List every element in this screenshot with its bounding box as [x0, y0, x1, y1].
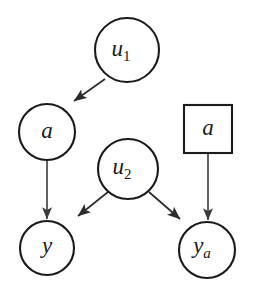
node-ya[interactable]: ya: [179, 222, 235, 278]
node-a-circle[interactable]: a: [19, 104, 75, 160]
node-y-label: y: [40, 233, 53, 258]
diagram-canvas: u1 a a u2 y ya: [0, 0, 255, 295]
edge-u1-to-a-circle: [74, 79, 105, 101]
node-y[interactable]: y: [20, 221, 74, 275]
node-u1[interactable]: u1: [95, 18, 159, 82]
edge-u2-to-ya: [149, 192, 180, 219]
node-a-circle-label: a: [41, 118, 53, 143]
node-a-square-label: a: [202, 115, 214, 140]
node-a-square[interactable]: a: [184, 105, 232, 153]
edge-u2-to-y: [78, 192, 108, 216]
node-u2[interactable]: u2: [98, 139, 158, 199]
causal-diagram: u1 a a u2 y ya: [0, 0, 255, 295]
